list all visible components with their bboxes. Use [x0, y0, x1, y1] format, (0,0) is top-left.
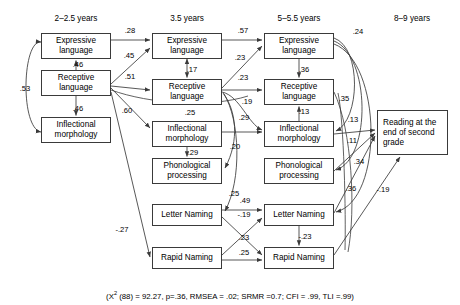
coef-letter3-to-reading: .34 [354, 157, 365, 166]
coef-infl3-to-recep3: .13 [299, 107, 310, 116]
node-expressive-language-wave2: Expressive language [152, 33, 222, 59]
coef-receptive-to-inflectional-wave1: .46 [73, 104, 84, 113]
coef-recep3-to-reading: .36 [346, 184, 357, 193]
node-receptive-language-wave3: Receptive language [264, 79, 334, 105]
coef-phono3-to-reading: .11 [347, 136, 357, 145]
node-letter-naming-wave3: Letter Naming [264, 204, 334, 226]
node-rapid-naming-wave2: Rapid Naming [152, 247, 222, 269]
node-inflectional-morphology-wave1: Inflectional morphology [41, 117, 111, 143]
node-inflectional-morphology-wave3: Inflectional morphology [264, 121, 334, 147]
coef-letter2-to-letter3: .49 [240, 196, 251, 205]
coef-expr2-recep2: .17 [187, 65, 198, 74]
coef-letter2-to-rapid3: -.19 [237, 210, 250, 219]
fit-statistics: (X2 (88) = 92.27, p=.36, RMSEA = .02; SR… [106, 290, 354, 301]
coef-expr3-to-recep3: .36 [299, 65, 310, 74]
coef-infl3-to-reading: .13 [348, 115, 359, 124]
path-diagram: 2–2.5 years 3.5 years 5–5.5 years 8–9 ye… [0, 0, 460, 305]
fit-rest: (88) = 92.27, p=.36, RMSEA = .02; SRMR =… [117, 292, 354, 301]
coef-recep1-to-infl2: .60 [122, 106, 133, 115]
coef-expr3-to-infl3: .35 [339, 94, 350, 103]
node-receptive-language-wave2: Receptive language [152, 79, 222, 105]
coef-recep1-to-recep2: .51 [125, 72, 136, 81]
coef-infl2-to-phono2: .29 [188, 148, 199, 157]
coef-expressive-inflectional-wave1: .53 [20, 84, 31, 93]
coef-recep2-to-recep3: .23 [238, 73, 249, 82]
coef-expr1-to-expr2: .28 [125, 26, 136, 35]
coef-recep2-to-letter2: .25 [229, 189, 240, 198]
coef-expr2-to-expr3: .57 [238, 26, 249, 35]
node-inflectional-morphology-wave2: Inflectional morphology [152, 121, 222, 147]
coef-recep2-to-infl3: .19 [242, 97, 253, 106]
coef-expr3-curve-24: .24 [353, 27, 364, 36]
coef-recep1-curve-25: .25 [185, 108, 196, 117]
fit-prefix: (X [106, 292, 114, 301]
coef-rapid2-to-rapid3: .25 [239, 248, 250, 257]
coef-recep1-to-expr2: .45 [124, 51, 135, 60]
coef-recep2-to-expr3: .23 [235, 53, 246, 62]
coef-rapid2-to-letter3: .23 [239, 233, 250, 242]
node-receptive-language-wave1: Receptive language [41, 70, 111, 96]
coef-receptive-to-expressive-wave1: .46 [73, 60, 84, 69]
coef-recep2-to-phono2: .20 [230, 142, 241, 151]
node-expressive-language-wave1: Expressive language [41, 33, 111, 59]
node-phonological-processing-wave2: Phonological processing [152, 158, 222, 184]
node-rapid-naming-wave3: Rapid Naming [264, 247, 334, 269]
coef-rapid3-to-reading: -.19 [376, 185, 389, 194]
coef-letter3-to-rapid3: -.23 [298, 232, 311, 241]
node-letter-naming-wave2: Letter Naming [152, 204, 222, 226]
coef-infl2-to-infl3: .29 [239, 113, 250, 122]
node-reading-second-grade: Reading at the end of second grade [377, 110, 448, 155]
node-phonological-processing-wave3: Phonological processing [264, 158, 334, 184]
node-expressive-language-wave3: Expressive language [264, 33, 334, 59]
coef-recep1-to-rapid2: -.27 [115, 225, 128, 234]
